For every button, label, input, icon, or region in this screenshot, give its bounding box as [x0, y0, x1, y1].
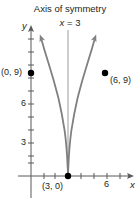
point-0-9-marker [28, 70, 34, 76]
y-tick-label-6: 6 [21, 99, 26, 108]
point-label-6-9: (6, 9) [110, 76, 131, 85]
x-axis [18, 173, 134, 179]
y-axis-label: y [22, 21, 27, 31]
vertex-label-3-0: (3, 0) [42, 182, 63, 191]
chart-title: Axis of symmetry [0, 4, 140, 14]
axis-of-symmetry-equation: x = 3 [0, 18, 140, 28]
y-tick-label-3: 3 [21, 138, 26, 147]
point-label-0-9: (0, 9) [1, 68, 22, 77]
parabola-figure: Axis of symmetry x = 3 y x 6 3 6 (0, 9) … [0, 0, 140, 204]
equation-value: = 3 [64, 17, 80, 28]
vertex-3-0-marker [65, 173, 71, 179]
x-tick-label-6: 6 [104, 180, 109, 189]
y-axis [28, 25, 34, 198]
point-6-9-marker [102, 70, 108, 76]
x-axis-label: x [130, 180, 135, 190]
